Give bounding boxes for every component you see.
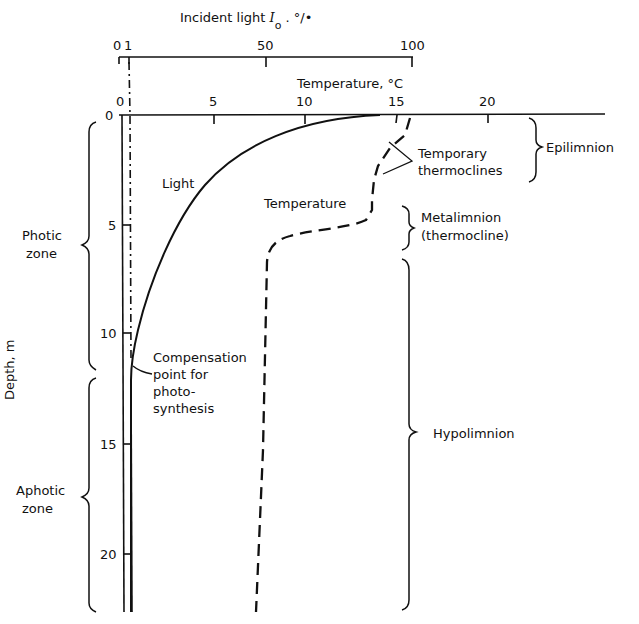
compensation-label-3: photo- [153, 384, 196, 399]
compensation-label-4: synthesis [153, 401, 214, 416]
compensation-label-2: point for [153, 367, 209, 382]
depth-tick-label-10: 10 [100, 326, 117, 341]
epilimnion-label: Epilimnion [546, 140, 614, 155]
temp-tick-15 [396, 115, 397, 123]
temporary-thermoclines-pointer [383, 142, 412, 174]
light-tick-label-50: 50 [257, 38, 274, 53]
metalimnion-brace [402, 206, 414, 250]
epilimnion-brace [529, 118, 542, 182]
temporary-thermoclines-label-2: thermoclines [418, 163, 503, 178]
temp-tick-label-15: 15 [388, 94, 405, 109]
temperature-axis-title: Temperature, °C [296, 76, 403, 91]
hypolimnion-label: Hypolimnion [433, 426, 515, 441]
compensation-pointer [133, 366, 152, 374]
photic-zone-brace [82, 122, 96, 370]
metalimnion-label-2: (thermocline) [421, 228, 509, 243]
depth-tick-label-5: 5 [108, 218, 116, 233]
temperature-curve-label: Temperature [263, 196, 346, 211]
light-axis-title: Incident light Io . °/• [180, 10, 312, 32]
temp-tick-label-10: 10 [296, 94, 313, 109]
temperature-axis-line [119, 114, 605, 115]
temperature-curve [256, 118, 410, 612]
light-tick-label-0: 0 [113, 38, 121, 53]
lake-profile-chart: Incident light Io . °/• 0 1 50 100 Tempe… [0, 0, 639, 624]
depth-tick-label-20: 20 [100, 547, 117, 562]
light-axis: Incident light Io . °/• 0 1 50 100 [113, 10, 425, 67]
photic-zone-label-1: Photic [22, 228, 62, 243]
depth-axis: 0 5 10 15 20 Depth, m [2, 108, 132, 612]
right-zone-braces: Epilimnion Metalimnion (thermocline) Hyp… [402, 118, 614, 610]
depth-axis-line [122, 115, 124, 612]
temp-tick-label-0: 0 [116, 94, 124, 109]
photic-zone-label-2: zone [26, 246, 57, 261]
left-zone-braces: Photic zone Aphotic zone [16, 122, 96, 612]
light-tick-label-1: 1 [124, 38, 132, 53]
light-tick-label-100: 100 [400, 38, 425, 53]
metalimnion-label-1: Metalimnion [421, 210, 501, 225]
hypolimnion-brace [402, 259, 416, 610]
light-curve-label: Light [162, 176, 194, 191]
aphotic-zone-label-2: zone [22, 501, 53, 516]
temporary-thermoclines-label-1: Temporary [417, 146, 487, 161]
depth-axis-title: Depth, m [2, 339, 17, 400]
temp-tick-label-5: 5 [209, 94, 217, 109]
depth-tick-label-15: 15 [100, 437, 117, 452]
temp-tick-label-20: 20 [479, 94, 496, 109]
light-curve-tail [131, 380, 132, 612]
aphotic-zone-brace [82, 378, 96, 612]
one-percent-light-line [129, 62, 131, 360]
aphotic-zone-label-1: Aphotic [16, 483, 65, 498]
compensation-label-1: Compensation [153, 350, 247, 365]
depth-tick-label-0: 0 [105, 108, 113, 123]
